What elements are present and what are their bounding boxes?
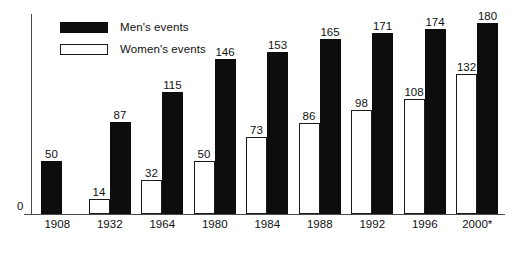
bar-value-mens-1964: 115 [163, 79, 181, 92]
bar-womens-1984: 73 [246, 137, 267, 214]
x-tick-1988: 1988 [294, 217, 347, 231]
bar-mens-2000: 180 [477, 23, 498, 214]
bar-value-mens-1984: 153 [268, 39, 287, 52]
x-tick-1984: 1984 [241, 217, 294, 231]
bar-chart: Men's events Women's events 0 5014873211… [0, 0, 516, 253]
bar-value-mens-1988: 165 [320, 26, 339, 39]
bar-value-mens-1932: 87 [114, 109, 127, 122]
bar-value-mens-1980: 146 [215, 46, 234, 59]
x-tick-2000: 2000* [451, 217, 504, 231]
bar-womens-1980: 50 [194, 161, 215, 214]
bar-mens-1964: 115 [162, 92, 183, 214]
bar-mens-1996: 174 [425, 29, 446, 214]
bar-value-mens-1996: 174 [425, 16, 444, 29]
bar-value-womens-1980: 50 [198, 148, 211, 161]
bar-value-womens-1996: 108 [404, 86, 423, 99]
plot-area: 5014873211550146731538616598171108174132… [0, 0, 516, 253]
x-tick-1980: 1980 [189, 217, 242, 231]
bar-womens-1932: 14 [89, 199, 110, 214]
bar-womens-2000: 132 [456, 74, 477, 214]
bar-mens-1908: 50 [41, 161, 62, 214]
x-tick-1932: 1932 [84, 217, 137, 231]
bar-mens-1992: 171 [372, 33, 393, 214]
bar-value-womens-2000: 132 [457, 61, 476, 74]
bar-mens-1932: 87 [110, 122, 131, 214]
x-tick-1996: 1996 [399, 217, 452, 231]
bar-mens-1980: 146 [215, 59, 236, 214]
bar-womens-1964: 32 [141, 180, 162, 214]
bar-womens-1996: 108 [404, 99, 425, 214]
x-tick-1908: 1908 [31, 217, 84, 231]
bar-value-mens-2000: 180 [478, 10, 497, 23]
bar-value-womens-1984: 73 [250, 124, 263, 137]
bar-womens-1988: 86 [299, 123, 320, 214]
x-tick-1992: 1992 [346, 217, 399, 231]
bar-mens-1988: 165 [320, 39, 341, 214]
bar-value-womens-1932: 14 [93, 186, 106, 199]
bar-value-womens-1964: 32 [145, 167, 158, 180]
bar-mens-1984: 153 [267, 52, 288, 214]
bar-value-mens-1908: 50 [45, 148, 58, 161]
bar-value-mens-1992: 171 [373, 20, 392, 33]
bar-value-womens-1988: 86 [303, 110, 316, 123]
x-tick-1964: 1964 [136, 217, 189, 231]
bar-value-womens-1992: 98 [355, 97, 368, 110]
bar-womens-1992: 98 [351, 110, 372, 214]
